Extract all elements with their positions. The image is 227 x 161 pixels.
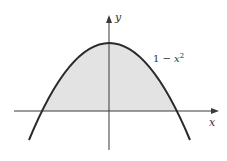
x-axis-arrow-icon xyxy=(211,108,219,114)
y-axis-arrow-icon xyxy=(106,15,112,23)
curve-label: 1 − x2 xyxy=(153,52,184,64)
y-axis-label: y xyxy=(114,11,122,24)
curve-label-exponent: 2 xyxy=(180,52,184,60)
curve-label-prefix: 1 − xyxy=(153,53,174,64)
x-axis-label: x xyxy=(209,116,216,129)
parabola-figure: y x 1 − x2 xyxy=(0,0,227,161)
